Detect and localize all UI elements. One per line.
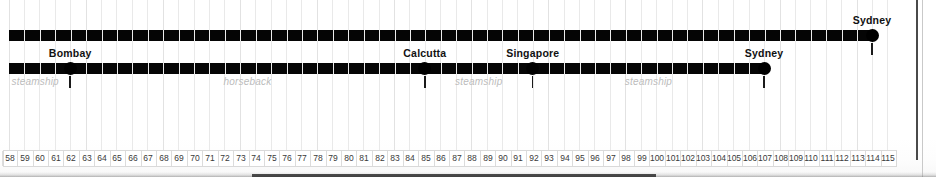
page-edge-rule [916, 0, 918, 160]
mode-label-steamship: steamship [455, 76, 502, 87]
gridline [718, 0, 719, 152]
bar-segment-tick [472, 30, 473, 41]
axis-tick [310, 151, 311, 166]
gridline [178, 0, 179, 152]
axis-tick-label: 65 [112, 152, 121, 165]
bar-segment-tick [456, 30, 457, 41]
axis-tick [541, 151, 542, 166]
gridline [780, 0, 781, 152]
bar-segment-tick [518, 63, 519, 74]
bar-segment-tick [209, 30, 210, 41]
gridline [286, 0, 287, 152]
axis-tick [434, 151, 435, 166]
gridline [209, 0, 210, 152]
bar-segment-tick [179, 30, 180, 41]
axis-tick-label: 68 [159, 152, 168, 165]
axis-tick-label: 85 [421, 152, 430, 165]
axis-tick-label: 90 [498, 152, 507, 165]
bar-segment-tick [117, 30, 118, 41]
axis-tick-label: 72 [220, 152, 229, 165]
axis-tick-label: 58 [5, 152, 14, 165]
axis-tick-label: 67 [143, 152, 152, 165]
bar-segment-tick [240, 30, 241, 41]
bar-segment-tick [256, 30, 257, 41]
axis-tick-label: 70 [190, 152, 199, 165]
axis-tick-label: 77 [297, 152, 306, 165]
bar-segment-tick [333, 63, 334, 74]
bar-segment-tick [857, 30, 858, 41]
axis-tick-label: 115 [881, 152, 895, 165]
bar-segment-tick [163, 30, 164, 41]
bar-segment-tick [811, 30, 812, 41]
axis-tick [603, 151, 604, 166]
axis-tick-label: 106 [743, 152, 757, 165]
axis-tick-label: 73 [236, 152, 245, 165]
bar-segment-tick [518, 30, 519, 41]
axis-tick [372, 151, 373, 166]
bar-segment-tick [595, 30, 596, 41]
bar-segment-tick [24, 30, 25, 41]
bar-segment-tick [441, 30, 442, 41]
bar-segment-tick [780, 30, 781, 41]
axis-tick-label: 78 [313, 152, 322, 165]
gridline [610, 0, 611, 152]
axis-tick [464, 151, 465, 166]
axis-tick [125, 151, 126, 166]
axis-tick [79, 151, 80, 166]
bar-segment-tick [364, 63, 365, 74]
axis-tick-label: 103 [696, 152, 710, 165]
bar-segment-tick [703, 63, 704, 74]
axis-tick [94, 151, 95, 166]
bar-segment-tick [317, 30, 318, 41]
bar-segment-tick [687, 63, 688, 74]
bar-segment-tick [271, 63, 272, 74]
gridline [9, 0, 10, 152]
bar-segment-tick [102, 63, 103, 74]
bar-segment-tick [395, 30, 396, 41]
axis-tick-label: 64 [97, 152, 106, 165]
axis-tick-label: 79 [328, 152, 337, 165]
axis-tick [449, 151, 450, 166]
city-marker-stem [424, 76, 425, 88]
bar-segment-tick [472, 63, 473, 74]
axis-tick-label: 69 [174, 152, 183, 165]
bar-segment-tick [348, 63, 349, 74]
bar-segment-tick [132, 63, 133, 74]
axis-tick [403, 151, 404, 166]
bar-segment-tick [225, 30, 226, 41]
axis-tick-label: 104 [712, 152, 726, 165]
bar-segment-tick [718, 30, 719, 41]
axis-tick-label: 88 [467, 152, 476, 165]
mode-label-steamship: steamship [625, 76, 672, 87]
bar-segment-tick [487, 30, 488, 41]
axis-tick-label: 71 [205, 152, 214, 165]
bar-segment-tick [441, 63, 442, 74]
page-edge-rule-soft [922, 0, 923, 177]
bar-segment-tick [225, 63, 226, 74]
bar-segment-tick [826, 30, 827, 41]
axis-tick-label: 59 [20, 152, 29, 165]
gridline [579, 0, 580, 152]
axis-tick [33, 151, 34, 166]
axis-tick-label: 84 [405, 152, 414, 165]
axis-tick-label: 86 [436, 152, 445, 165]
gridline [594, 0, 595, 152]
bar-segment-tick [487, 63, 488, 74]
bar-segment-tick [564, 30, 565, 41]
bar-segment-tick [364, 30, 365, 41]
axis-tick-label: 61 [51, 152, 60, 165]
axis-tick [218, 151, 219, 166]
bar-segment-tick [86, 63, 87, 74]
axis-tick-label: 87 [452, 152, 461, 165]
axis-tick [511, 151, 512, 166]
city-marker-stem [763, 76, 764, 88]
bar-segment-tick [703, 30, 704, 41]
axis-tick-label: 98 [621, 152, 630, 165]
axis-tick [480, 151, 481, 166]
bar-segment-tick [317, 63, 318, 74]
axis-tick-label: 66 [128, 152, 137, 165]
axis-tick [526, 151, 527, 166]
axis-tick-label: 95 [575, 152, 584, 165]
axis-tick-label: 102 [681, 152, 695, 165]
bar-segment-tick [610, 63, 611, 74]
